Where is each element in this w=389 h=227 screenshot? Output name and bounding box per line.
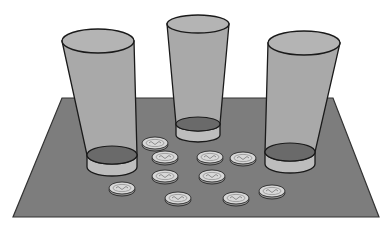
coin <box>165 192 191 206</box>
coin <box>142 137 168 151</box>
glass-bottom <box>265 143 315 161</box>
coin <box>197 151 223 165</box>
glass-rim <box>167 15 229 33</box>
middle-glass <box>167 15 229 142</box>
glass-rim <box>62 29 134 53</box>
coin <box>152 170 178 184</box>
glass-bottom <box>176 117 220 131</box>
glass-rim <box>268 31 340 55</box>
coin <box>199 170 225 184</box>
coin <box>223 192 249 206</box>
coin <box>109 182 135 196</box>
coin <box>230 152 256 166</box>
coin <box>152 151 178 165</box>
glass-bottom <box>87 146 137 164</box>
coin <box>259 185 285 199</box>
glasses-and-coins-illustration <box>0 0 389 227</box>
